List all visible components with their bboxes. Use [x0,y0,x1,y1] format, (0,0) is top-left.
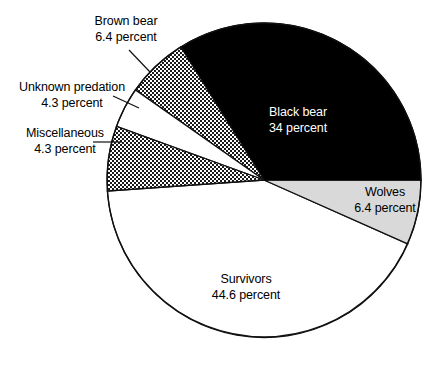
slice-callout-brown-bear: Brown bear 6.4 percent [74,14,178,45]
pie-chart-canvas [0,0,442,367]
pie-chart-figure: Brown bear 6.4 percent Unknown predation… [0,0,442,367]
callout-value-brown-bear: 6.4 percent [74,30,178,46]
callout-name-miscellaneous: Miscellaneous [10,126,120,142]
slice-label-value-survivors: 44.6 percent [196,288,296,304]
slice-label-name-black-bear: Black bear [248,105,348,121]
slice-label-survivors: Survivors 44.6 percent [196,272,296,303]
slice-label-black-bear: Black bear 34 percent [248,105,348,136]
slice-label-name-wolves: Wolves [338,185,432,201]
callout-value-unknown-predation: 4.3 percent [10,96,134,112]
slice-label-name-survivors: Survivors [196,272,296,288]
slice-label-wolves: Wolves 6.4 percent [338,185,432,216]
callout-name-unknown-predation: Unknown predation [10,80,134,96]
slice-callout-unknown-predation: Unknown predation 4.3 percent [10,80,134,111]
callout-name-brown-bear: Brown bear [74,14,178,30]
slice-label-value-black-bear: 34 percent [248,121,348,137]
leader-line-brown-bear [129,50,150,72]
slice-callout-miscellaneous: Miscellaneous 4.3 percent [10,126,120,157]
slice-label-value-wolves: 6.4 percent [338,201,432,217]
callout-value-miscellaneous: 4.3 percent [10,142,120,158]
